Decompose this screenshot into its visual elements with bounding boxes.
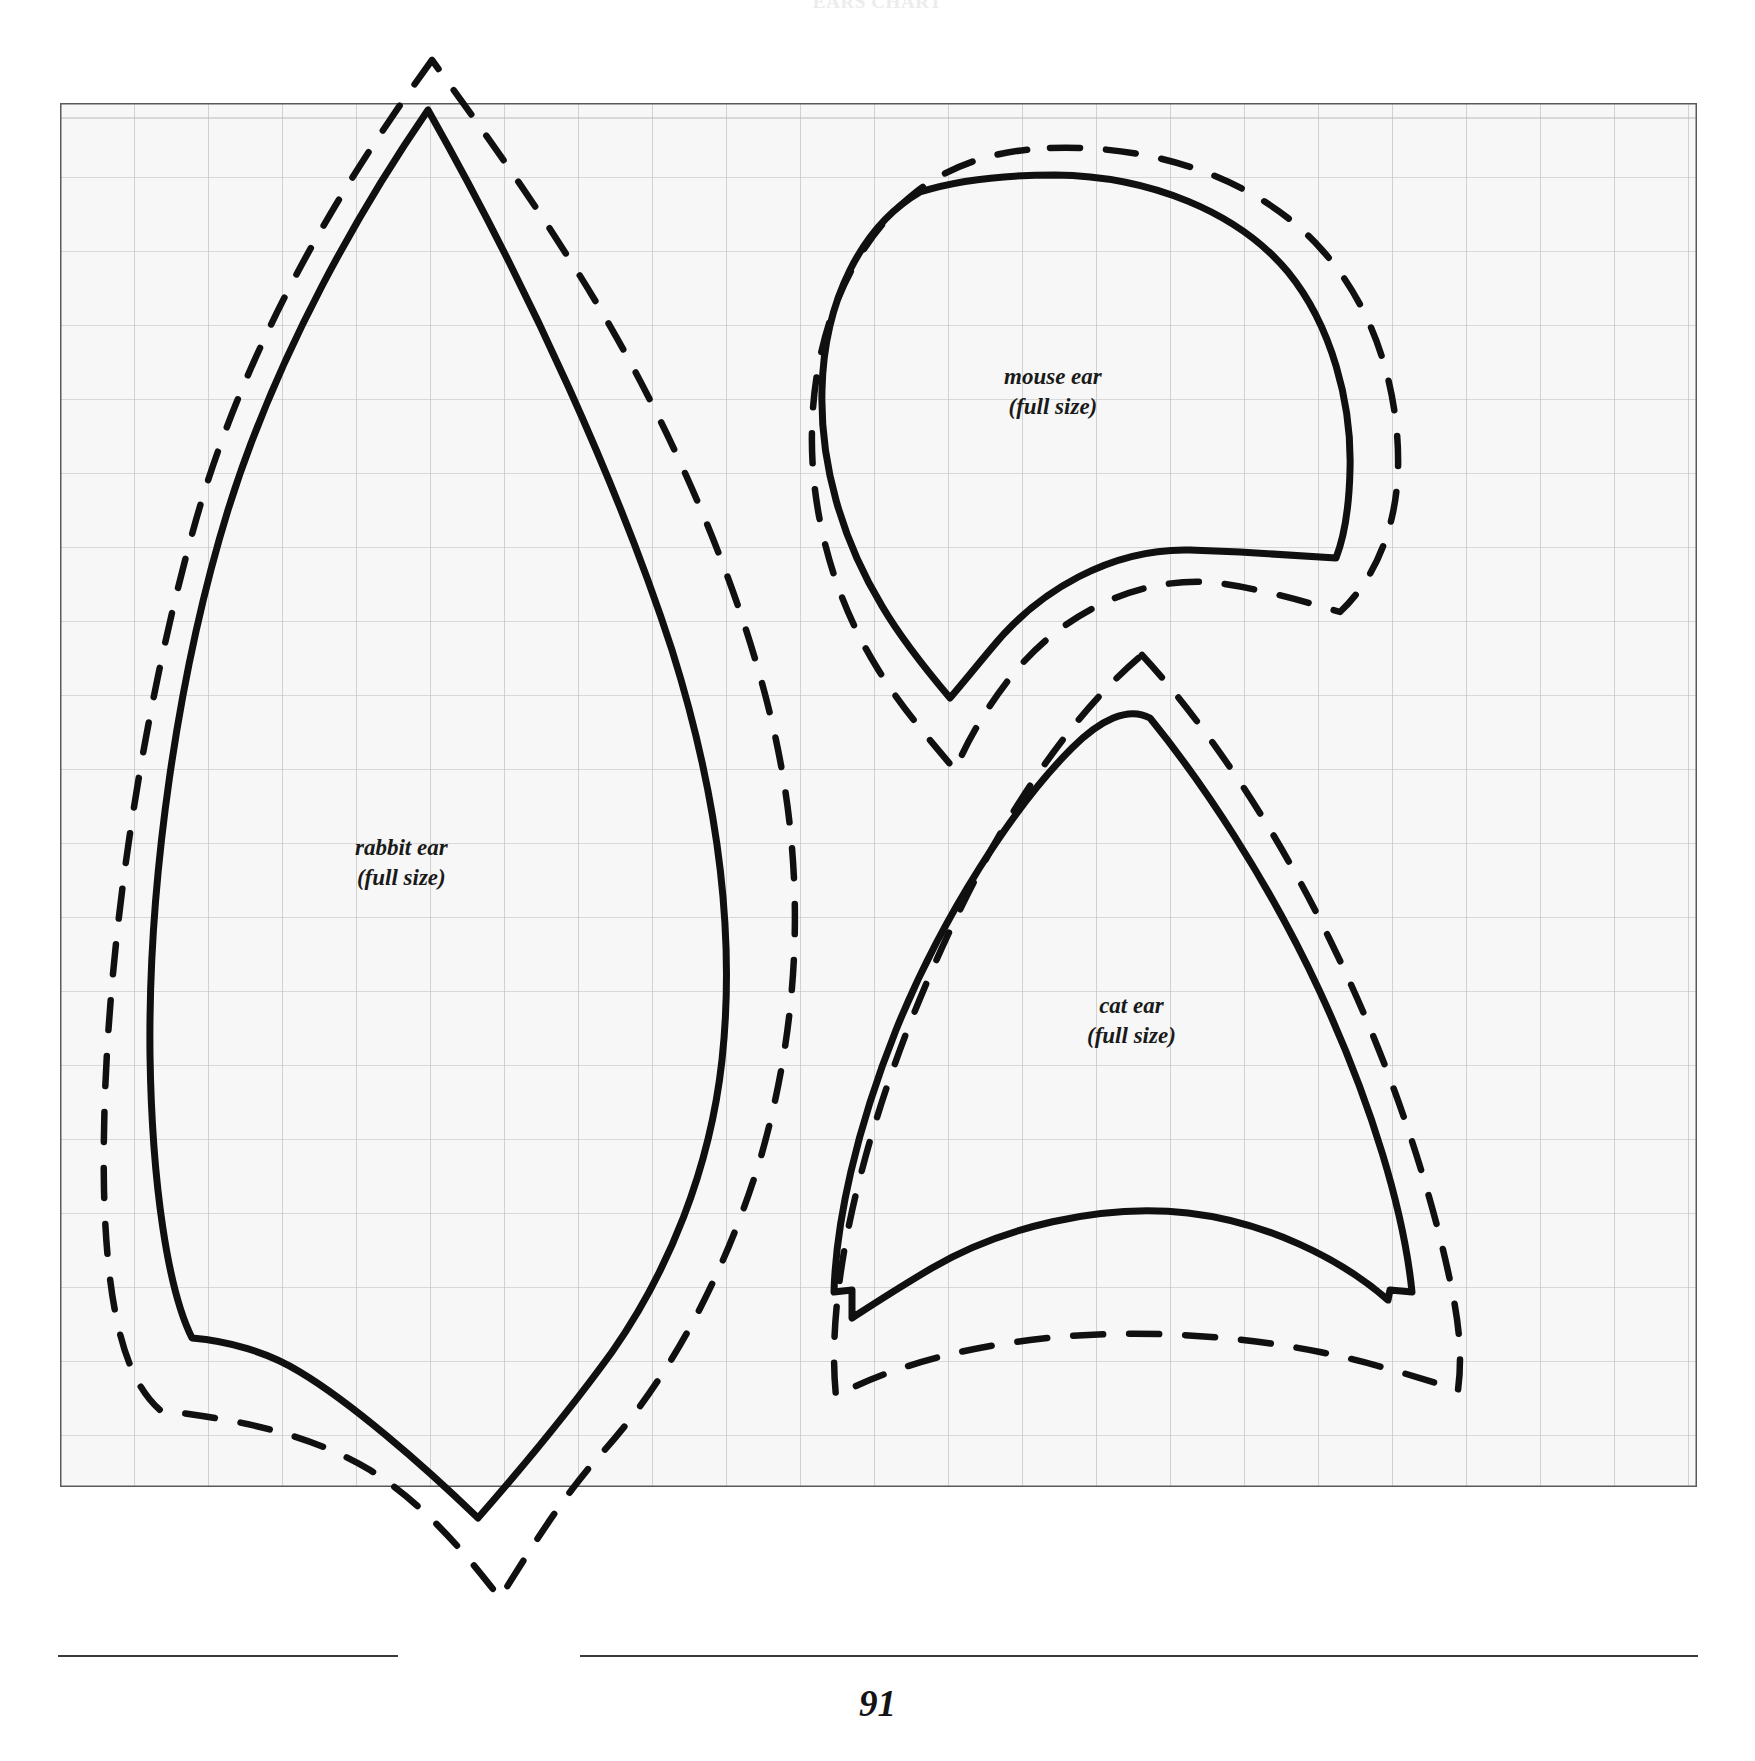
mouse-ear-label-line1: mouse ear <box>1004 364 1102 389</box>
mouse-ear-label-line2: (full size) <box>1004 392 1102 422</box>
rabbit-ear-label-line2: (full size) <box>355 863 448 893</box>
footer-rule-left <box>58 1655 398 1657</box>
piece-label-mouse-ear: mouse ear (full size) <box>1004 362 1102 422</box>
cat-ear-label-line1: cat ear <box>1099 993 1164 1018</box>
grid-svg <box>60 103 1697 1487</box>
footer-rule-right <box>580 1655 1698 1657</box>
page-number: 91 <box>0 1682 1755 1725</box>
piece-label-rabbit-ear: rabbit ear (full size) <box>355 833 448 893</box>
cat-ear-label-line2: (full size) <box>1087 1021 1176 1051</box>
pattern-page: EARS CHART <box>0 0 1755 1761</box>
grid-cells <box>60 103 1697 1487</box>
running-head: EARS CHART <box>0 0 1755 13</box>
rabbit-ear-label-line1: rabbit ear <box>355 835 448 860</box>
piece-label-cat-ear: cat ear (full size) <box>1087 991 1176 1051</box>
pattern-grid <box>60 103 1697 1487</box>
